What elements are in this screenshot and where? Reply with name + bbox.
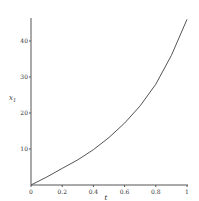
x-tick-label: 0.2: [57, 188, 67, 195]
chart: 10203040 00.20.40.60.81 t x1: [0, 0, 199, 201]
x-tick-label: 0.8: [151, 188, 161, 195]
x-tick-label: 0.4: [89, 188, 99, 195]
x-tick-label: 1: [185, 188, 189, 195]
series-line: [31, 19, 187, 185]
y-tick-label: 30: [20, 73, 28, 80]
y-tick-label: 10: [20, 145, 28, 152]
y-ticks: 10203040: [20, 37, 31, 152]
axes: [31, 18, 188, 185]
y-tick-label: 40: [20, 37, 28, 44]
x-tick-label: 0.6: [120, 188, 130, 195]
y-tick-label: 20: [20, 109, 28, 116]
x-ticks: 00.20.40.60.81: [29, 185, 189, 195]
x-tick-label: 0: [29, 188, 33, 195]
y-axis-label: x1: [9, 94, 16, 103]
x-axis-label: t: [105, 194, 108, 201]
